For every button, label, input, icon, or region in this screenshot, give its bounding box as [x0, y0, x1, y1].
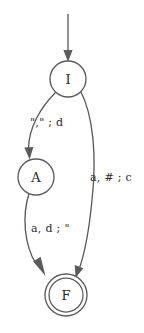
state-I-label: I: [65, 72, 70, 87]
transition-I-to-F-label: a, # ; c: [90, 171, 132, 184]
automaton-canvas: I A F "," ; d a, # ; c a, d ; ": [0, 0, 144, 333]
transition-A-to-F: [25, 194, 46, 277]
state-A[interactable]: A: [18, 159, 54, 195]
transition-I-to-F: [75, 91, 94, 278]
transition-A-to-F-arrow-head: [33, 257, 45, 276]
state-F[interactable]: F: [45, 274, 87, 316]
automaton-diagram: I A F "," ; d a, # ; c a, d ; ": [0, 0, 144, 333]
start-arrow: [63, 14, 72, 62]
state-F-label: F: [61, 288, 70, 303]
state-I[interactable]: I: [50, 61, 86, 97]
transition-I-to-A-label: "," ; d: [30, 116, 63, 129]
state-A-label: A: [30, 170, 41, 185]
transition-I-to-A-arrow-head: [24, 147, 33, 160]
start-arrow-head: [63, 50, 72, 62]
transition-A-to-F-label: a, d ; ": [31, 222, 70, 235]
